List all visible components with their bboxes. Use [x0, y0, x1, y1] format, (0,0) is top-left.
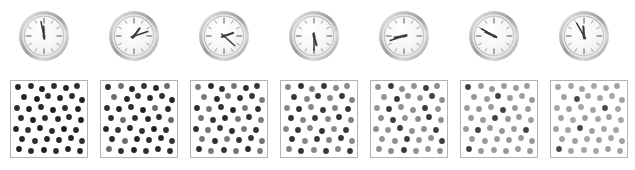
dot — [482, 138, 488, 144]
dot — [378, 115, 384, 121]
dot — [397, 125, 403, 131]
dot — [230, 107, 236, 113]
dot — [409, 128, 415, 134]
dot — [259, 97, 265, 103]
dot — [428, 135, 434, 141]
dot — [288, 115, 294, 121]
dot — [475, 127, 481, 133]
dot — [613, 127, 619, 133]
dot — [574, 96, 580, 102]
dot — [349, 97, 355, 103]
dot — [28, 148, 34, 154]
dot — [104, 105, 110, 111]
dot — [298, 148, 304, 154]
dot — [158, 135, 164, 141]
dot — [201, 94, 207, 100]
dot — [426, 114, 432, 120]
dot — [325, 116, 331, 122]
dot — [392, 138, 398, 144]
dot — [289, 136, 295, 142]
dot — [169, 138, 175, 144]
dot — [487, 125, 493, 131]
dot — [570, 117, 576, 123]
dot — [116, 106, 122, 112]
dot — [505, 116, 511, 122]
dot — [589, 128, 595, 134]
dot — [333, 85, 339, 91]
dot — [528, 117, 534, 123]
dot — [131, 147, 137, 153]
dot — [527, 148, 533, 154]
dot — [15, 84, 21, 90]
dot — [296, 106, 302, 112]
dot — [579, 86, 585, 92]
dot — [429, 93, 435, 99]
dot — [417, 95, 423, 101]
dot — [120, 117, 126, 123]
dot — [231, 83, 237, 89]
dot — [218, 104, 224, 110]
dot — [421, 126, 427, 132]
dot — [512, 105, 518, 111]
dot — [435, 106, 441, 112]
dot — [132, 115, 138, 121]
dot — [13, 126, 19, 132]
dot — [167, 148, 173, 154]
dot — [249, 93, 255, 99]
dot — [388, 83, 394, 89]
dot — [214, 96, 220, 102]
dot — [480, 117, 486, 123]
dot — [506, 137, 512, 143]
dot — [38, 104, 44, 110]
dot — [169, 97, 175, 103]
dot — [196, 146, 202, 152]
dot — [257, 148, 263, 154]
dot — [326, 137, 332, 143]
dot — [415, 116, 421, 122]
dot — [79, 138, 85, 144]
dot — [145, 116, 151, 122]
dot — [327, 95, 333, 101]
dot — [141, 83, 147, 89]
dot — [159, 93, 165, 99]
dot — [348, 117, 354, 123]
dot — [164, 83, 170, 89]
dot — [478, 83, 484, 89]
dot — [335, 146, 341, 152]
clock-hub — [43, 35, 46, 38]
dot — [323, 148, 329, 154]
dot — [124, 96, 130, 102]
dot — [492, 115, 498, 121]
dot — [153, 85, 159, 91]
dot — [471, 94, 477, 100]
dot — [307, 125, 313, 131]
dot — [199, 136, 205, 142]
dot-panel-5 — [370, 80, 448, 158]
clock-hub — [403, 35, 406, 38]
dot — [608, 135, 614, 141]
dot — [308, 104, 314, 110]
dot — [129, 86, 135, 92]
dot — [478, 148, 484, 154]
dot — [503, 148, 509, 154]
dot — [34, 96, 40, 102]
dot — [139, 128, 145, 134]
dot — [578, 104, 584, 110]
dot — [511, 126, 517, 132]
dot — [258, 117, 264, 123]
dot — [434, 83, 440, 89]
dot — [468, 115, 474, 121]
clock-7 — [556, 8, 612, 64]
dot — [500, 107, 506, 113]
dot — [39, 86, 45, 92]
dot — [118, 83, 124, 89]
dot — [411, 83, 417, 89]
dot — [73, 127, 79, 133]
dot — [605, 146, 611, 152]
dot — [248, 135, 254, 141]
dot — [373, 126, 379, 132]
dot — [529, 138, 535, 144]
dot — [219, 86, 225, 92]
dot — [302, 138, 308, 144]
dot — [581, 147, 587, 153]
